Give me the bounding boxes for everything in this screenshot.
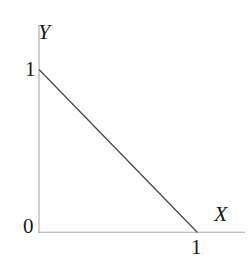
y-axis-tick-label-one: 1: [25, 59, 36, 80]
origin-tick-label: 0: [23, 216, 34, 237]
x-axis-tick-label-one: 1: [191, 237, 202, 258]
x-axis-label: X: [214, 203, 227, 225]
data-line-segment: [40, 70, 198, 232]
figure-container: Y X 1 0 1: [0, 0, 250, 265]
y-axis-label: Y: [38, 21, 50, 43]
